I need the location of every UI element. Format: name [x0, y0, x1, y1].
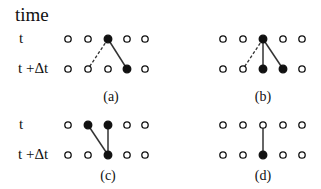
empty-site-node-top: [299, 122, 305, 128]
occupied-site-node-top: [104, 121, 112, 129]
empty-site-node-top: [124, 122, 130, 128]
empty-site-node-top: [240, 36, 246, 42]
lattice-diagram: [0, 0, 321, 189]
occupied-site-node-top: [84, 121, 92, 129]
panel-a: [65, 35, 148, 73]
empty-site-node-bottom: [65, 66, 71, 72]
empty-site-node-top: [220, 36, 226, 42]
panel-b: [220, 35, 305, 73]
solid-link: [88, 125, 108, 155]
empty-site-node-top: [260, 122, 266, 128]
empty-site-node-bottom: [220, 152, 226, 158]
empty-site-node-bottom: [220, 66, 226, 72]
empty-site-node-bottom: [240, 66, 246, 72]
panel-c: [65, 121, 148, 159]
solid-link: [108, 39, 127, 69]
empty-site-node-bottom: [65, 152, 71, 158]
diagram-canvas: time t t +Δt t t +Δt (a) (b) (c) (d): [0, 0, 321, 189]
empty-site-node-top: [85, 36, 91, 42]
empty-site-node-bottom: [299, 152, 305, 158]
occupied-site-node-bottom: [259, 65, 267, 73]
caption-panel-b: (b): [255, 90, 271, 104]
empty-site-node-bottom: [299, 66, 305, 72]
empty-site-node-bottom: [280, 152, 286, 158]
empty-site-node-top: [65, 36, 71, 42]
empty-site-node-top: [240, 122, 246, 128]
empty-site-node-bottom: [142, 152, 148, 158]
dashed-link: [243, 39, 263, 69]
empty-site-node-bottom: [85, 152, 91, 158]
dashed-link: [88, 39, 108, 69]
empty-site-node-bottom: [105, 66, 111, 72]
empty-site-node-top: [280, 36, 286, 42]
occupied-site-node-bottom: [104, 151, 112, 159]
panel-d: [220, 122, 305, 159]
empty-site-node-bottom: [240, 152, 246, 158]
empty-site-node-top: [280, 122, 286, 128]
caption-panel-d: (d): [255, 169, 271, 183]
occupied-site-node-top: [104, 35, 112, 43]
empty-site-node-top: [142, 36, 148, 42]
empty-site-node-bottom: [142, 66, 148, 72]
empty-site-node-top: [142, 122, 148, 128]
caption-panel-a: (a): [103, 90, 119, 104]
solid-link: [263, 39, 283, 69]
occupied-site-node-top: [259, 35, 267, 43]
empty-site-node-top: [124, 36, 130, 42]
occupied-site-node-bottom: [279, 65, 287, 73]
occupied-site-node-bottom: [259, 151, 267, 159]
empty-site-node-bottom: [124, 152, 130, 158]
empty-site-node-top: [299, 36, 305, 42]
empty-site-node-top: [220, 122, 226, 128]
occupied-site-node-bottom: [123, 65, 131, 73]
empty-site-node-top: [65, 122, 71, 128]
caption-panel-c: (c): [100, 169, 116, 183]
empty-site-node-bottom: [85, 66, 91, 72]
